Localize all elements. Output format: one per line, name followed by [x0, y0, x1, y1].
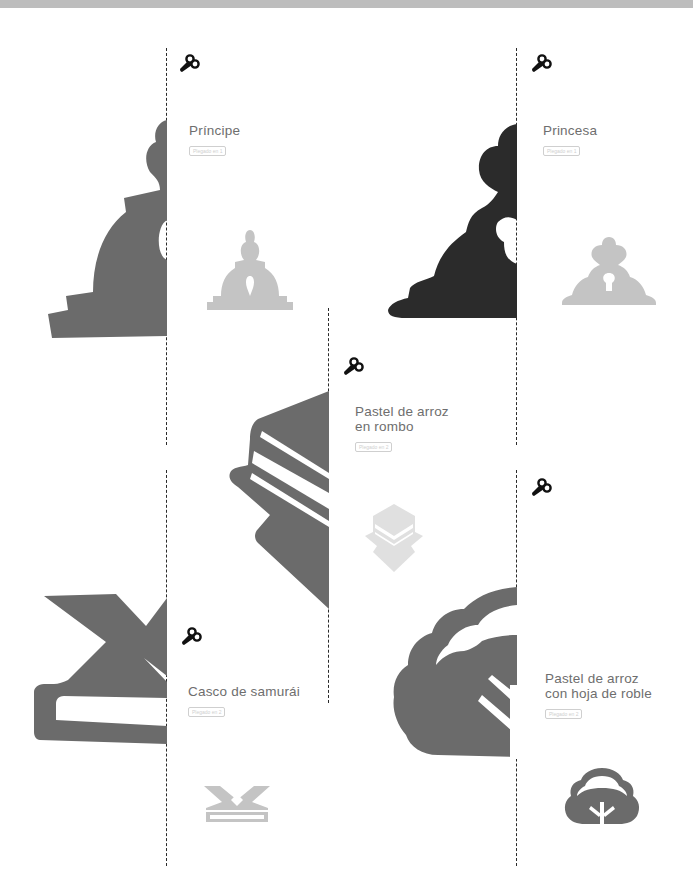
- pastel-rombo-preview-icon: [363, 500, 425, 574]
- scissors-icon: [178, 53, 200, 75]
- fold-badge-princesa: Plegado en 1: [543, 146, 580, 156]
- scissors-icon: [530, 53, 552, 75]
- card-title-pastel-rombo-line1: Pastel de arroz: [355, 404, 449, 420]
- card-title-principe: Príncipe: [189, 123, 240, 139]
- fold-badge-casco: Plegado en 2: [188, 707, 225, 717]
- card-title-pastel-roble-line1: Pastel de arroz: [545, 671, 639, 687]
- fold-badge-pastel-rombo: Plegado en 2: [355, 442, 392, 452]
- card-title-casco: Casco de samurái: [188, 684, 300, 700]
- top-band: [0, 0, 693, 8]
- scissors-icon: [180, 626, 202, 648]
- fold-badge-principe: Plegado en 1: [189, 146, 226, 156]
- principe-preview-icon: [205, 230, 295, 314]
- pastel-rombo-half-silhouette: [222, 391, 330, 613]
- card-title-pastel-roble-line2: con hoja de roble: [545, 686, 652, 702]
- card-title-princesa: Princesa: [543, 123, 597, 139]
- casco-half-silhouette: [34, 586, 168, 746]
- pastel-roble-half-silhouette: [392, 585, 518, 759]
- princesa-preview-icon: [560, 237, 658, 307]
- pastel-roble-preview-icon: [563, 766, 641, 824]
- scissors-icon: [342, 356, 364, 378]
- princesa-half-silhouette: [386, 124, 518, 318]
- principe-half-silhouette: [48, 120, 168, 340]
- scissors-icon: [530, 477, 552, 499]
- fold-badge-pastel-roble: Plegado en 2: [545, 709, 582, 719]
- card-title-pastel-rombo-line2: en rombo: [355, 419, 414, 435]
- casco-preview-icon: [202, 782, 272, 824]
